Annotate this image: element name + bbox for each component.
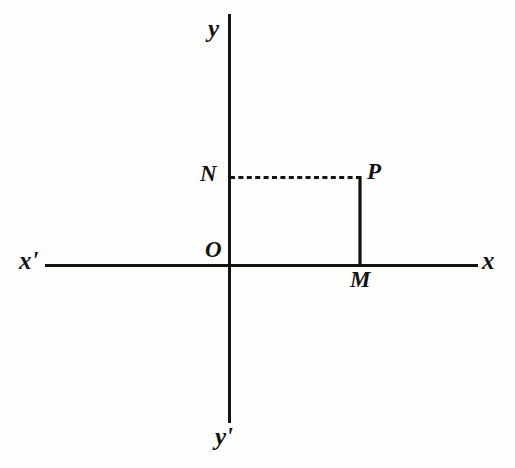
point-label-n: N: [200, 162, 217, 185]
axis-label-y-positive: y: [208, 16, 219, 41]
axes-drawing: [0, 0, 515, 468]
point-label-p: P: [367, 160, 381, 183]
point-label-m: M: [350, 268, 370, 291]
coordinate-axes-figure: y y' x x' O N P M: [0, 0, 515, 468]
axis-label-x-positive: x: [482, 248, 495, 273]
axis-label-y-negative: y': [215, 424, 233, 449]
point-label-origin: O: [205, 238, 222, 261]
axis-label-x-negative: x': [19, 248, 38, 273]
